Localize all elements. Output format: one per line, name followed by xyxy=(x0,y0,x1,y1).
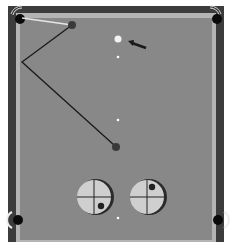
spin-dot xyxy=(149,184,155,190)
cue-ball xyxy=(115,36,122,43)
table-spot xyxy=(117,119,120,122)
table-spot xyxy=(117,217,120,220)
object-ball-center xyxy=(112,143,120,151)
object-ball-top xyxy=(68,21,76,29)
table-felt xyxy=(20,18,212,240)
table-spot xyxy=(117,56,120,59)
spin-dot xyxy=(98,203,104,209)
billiards-table xyxy=(0,0,232,247)
